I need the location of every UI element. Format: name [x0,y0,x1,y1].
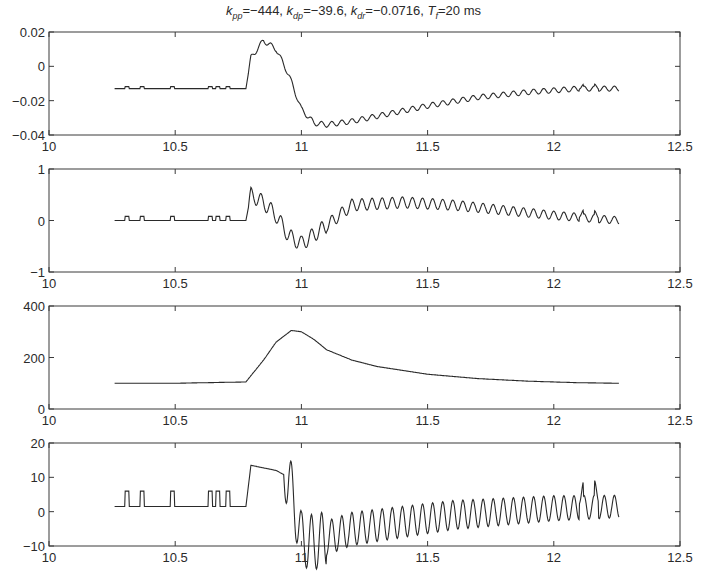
x-tick-label: 12.5 [667,413,692,428]
x-tick-label: 11.5 [415,139,439,154]
y-tick-label: 20 [31,436,45,451]
y-tick-label: 10 [31,470,45,485]
figure-canvas: 1010.51111.51212.5−0.04−0.0200.021010.51… [0,0,707,584]
axes-frame [49,306,680,409]
y-tick-label: 0 [38,402,45,417]
x-tick-label: 10.5 [163,139,188,154]
x-tick-label: 11 [295,139,309,154]
x-tick-label: 11 [295,413,309,428]
x-tick-label: 11.5 [415,413,439,428]
signal-line [115,331,619,384]
y-tick-label: −0.02 [12,94,45,109]
x-tick-label: 12 [547,550,561,565]
x-tick-label: 11 [295,550,309,565]
x-tick-label: 11 [295,276,309,291]
x-tick-label: 10.5 [163,550,188,565]
axes-frame [49,169,680,272]
y-tick-label: 1 [38,162,45,177]
x-tick-label: 10.5 [163,276,188,291]
y-tick-label: 0 [38,505,45,520]
x-tick-label: 12.5 [667,550,692,565]
y-tick-label: 0 [38,59,45,74]
x-tick-label: 12.5 [667,139,692,154]
y-tick-label: 0.02 [20,25,45,40]
y-tick-label: 400 [23,299,45,314]
x-tick-label: 10.5 [163,413,188,428]
y-tick-label: 0 [38,214,45,229]
y-tick-label: −0.04 [12,128,45,143]
y-tick-label: −10 [23,539,45,554]
x-tick-label: 12.5 [667,276,692,291]
x-tick-label: 12 [547,413,561,428]
signal-line [115,187,619,248]
x-tick-label: 12 [547,139,561,154]
x-tick-label: 11.5 [415,550,439,565]
y-tick-label: 200 [23,351,45,366]
signal-line [115,40,619,127]
y-tick-label: −1 [30,265,45,280]
signal-line [115,461,619,569]
x-tick-label: 12 [547,276,561,291]
x-tick-label: 11.5 [415,276,439,291]
